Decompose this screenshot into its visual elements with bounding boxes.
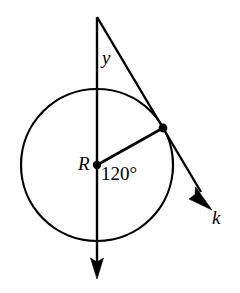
line-label-k: k: [212, 208, 220, 227]
geometry-canvas: [0, 0, 240, 293]
angle-label-y: y: [102, 48, 110, 67]
central-angle-label: 120°: [101, 164, 137, 183]
center-point-dot: [93, 161, 101, 169]
radius-segment: [97, 128, 163, 165]
tangent-point-dot: [159, 124, 168, 133]
center-label-R: R: [78, 154, 90, 173]
geometry-figure: R y k 120°: [0, 0, 240, 293]
